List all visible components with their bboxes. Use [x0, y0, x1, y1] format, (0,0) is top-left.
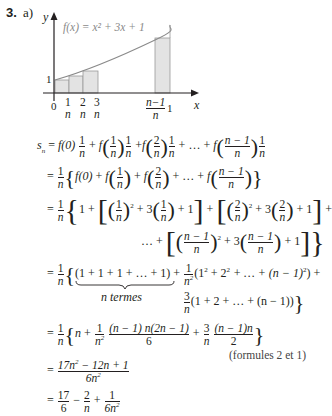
underbrace-icon: [75, 280, 175, 290]
derivation-line-6: 3n(1 + 2 + … + (n − 1))}: [183, 290, 304, 315]
derivation-line-2: = 1n{f(0) + f(1n) + f(2n) + … + f(n − 1n…: [47, 165, 263, 190]
function-label: f(x) = x² + 3x + 1: [63, 21, 145, 33]
y-axis-arrow-icon: [51, 12, 58, 20]
rectangle-last: [155, 38, 170, 93]
riemann-rectangles: [55, 38, 170, 93]
derivation-line-3: = 1n{1 + [(1n)2 + 3(1n) + 1] + [(2n)2 + …: [47, 196, 332, 224]
underbrace-label: n termes: [101, 290, 142, 305]
ones-sum: (1 + 1 + 1 + … + 1): [75, 266, 170, 280]
x-tick-2-over-n: 2n: [80, 96, 86, 120]
rectangle-1: [55, 80, 69, 93]
x-axis-arrow-icon: [191, 90, 199, 97]
x-tick-3-over-n: 3n: [94, 96, 100, 120]
x-tick-1-over-n: 1n: [65, 96, 71, 120]
derivation-line-8: = 17n2 − 12n + 16n2: [47, 359, 130, 384]
x-axis-label: x: [194, 98, 199, 113]
function-curve: [55, 25, 171, 80]
rectangle-3: [83, 71, 98, 93]
origin-label: 0: [51, 100, 57, 112]
x-tick-n-minus-1-over-n: n−1n: [146, 96, 165, 121]
derivation-line-4: … + [(n − 1n)2 + 3(n − 1n) + 1]}: [141, 228, 325, 256]
rectangle-2: [69, 76, 83, 93]
derivation-line-1: sn = f(0) 1n + f(1n)1n +f(2n)1n + … + f(…: [37, 134, 266, 159]
y-tick-1: 1: [46, 73, 52, 85]
x-end-label: 1: [167, 102, 173, 114]
formula-note: (formules 2 et 1): [229, 349, 306, 361]
derivation-line-9: = 176 − 2n + 16n2: [47, 389, 121, 414]
y-axis-label: y: [43, 10, 48, 25]
derivation-line-7: = 1n{n + 1n2 (n − 1) n(2n − 1)6 + 3n (n …: [47, 322, 264, 347]
